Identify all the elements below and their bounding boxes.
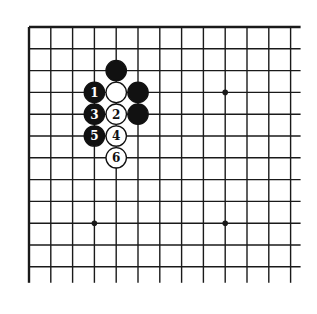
board-grid	[29, 27, 301, 283]
white-stone: 4	[106, 126, 126, 146]
black-stone	[128, 82, 148, 102]
black-stone-icon	[128, 82, 148, 102]
move-number: 4	[112, 129, 120, 143]
black-stone: 5	[84, 126, 104, 146]
move-number: 2	[112, 108, 120, 122]
black-stone: 3	[84, 104, 104, 124]
move-number: 3	[90, 108, 98, 122]
white-stone-icon	[106, 82, 126, 102]
black-stone	[106, 60, 126, 80]
go-board: 132546	[0, 0, 317, 314]
black-stone-icon	[128, 104, 148, 124]
star-point-icon	[222, 220, 228, 226]
white-stone: 6	[106, 148, 126, 168]
move-number: 5	[90, 129, 98, 143]
star-point-icon	[222, 90, 228, 96]
black-stone-icon	[106, 60, 126, 80]
white-stone	[106, 82, 126, 102]
black-stone: 1	[84, 82, 104, 102]
star-point-icon	[92, 220, 98, 226]
black-stone	[128, 104, 148, 124]
white-stone: 2	[106, 104, 126, 124]
move-number: 6	[112, 151, 120, 165]
move-number: 1	[90, 86, 98, 100]
